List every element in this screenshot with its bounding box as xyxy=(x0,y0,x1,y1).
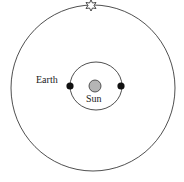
sun-label: Sun xyxy=(86,93,102,104)
earth-right-position xyxy=(117,82,124,89)
orbit-diagram: Earth Sun xyxy=(0,0,184,182)
sun xyxy=(89,80,101,92)
earth-left-position xyxy=(66,82,73,89)
earth-label: Earth xyxy=(36,74,58,85)
